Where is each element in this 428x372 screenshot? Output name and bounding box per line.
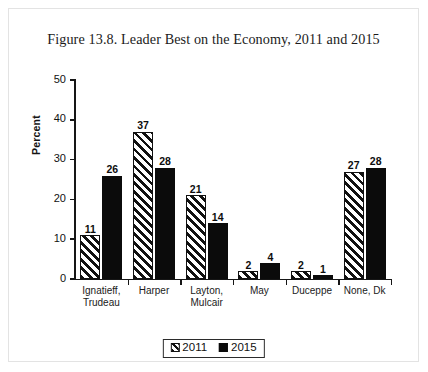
bar-value-label: 2 [245,260,251,271]
bar-value-label: 14 [212,212,224,223]
bar-2011-none-dk: 27 [344,172,364,279]
y-axis-tick-label: 20 [54,192,66,204]
x-axis-category-label: May [233,285,286,297]
y-axis-tick-mark [70,199,75,201]
chart-legend: 20112015 [162,339,264,358]
bar-2011-duceppe: 2 [291,271,311,279]
category-label-line: Layton, [180,285,233,297]
category-label-line: May [233,285,286,297]
bar-value-label: 4 [267,252,273,263]
category-label-line: Duceppe [286,285,339,297]
y-axis-tick-label: 30 [54,152,66,164]
bar-value-label: 1 [320,264,326,275]
bar-value-label: 21 [190,184,202,195]
category-label-line: Mulcair [180,297,233,309]
bar-2015-layton-mulcair: 14 [208,223,228,279]
bar-2015-may: 4 [260,263,280,279]
y-axis-tick-label: 0 [60,272,66,284]
y-axis-title: Percent [30,65,42,155]
bar-2015-none-dk: 28 [366,168,386,279]
bar-value-label: 2 [298,260,304,271]
bar-2011-ignatieff-trudeau: 11 [80,235,100,279]
bar-value-label: 37 [137,120,149,131]
bar-2011-harper: 37 [133,132,153,279]
bar-value-label: 27 [348,160,360,171]
legend-item-2011: 2011 [170,342,207,354]
bar-2011-layton-mulcair: 21 [186,195,206,279]
hatch-swatch-icon [170,343,179,352]
legend-label: 2015 [231,342,257,354]
category-label-line: None, Dk [338,285,391,297]
x-axis-tick-mark [391,279,392,285]
x-axis-category-label: Duceppe [286,285,339,297]
bar-value-label: 26 [106,164,118,175]
y-axis-tick-mark [70,159,75,161]
figure-frame: Figure 13.8. Leader Best on the Economy,… [8,8,419,362]
x-axis-category-label: None, Dk [338,285,391,297]
page-title: Figure 13.8. Leader Best on the Economy,… [9,31,418,48]
bar-2015-ignatieff-trudeau: 26 [102,176,122,279]
y-axis-tick-label: 10 [54,232,66,244]
bar-value-label: 11 [85,224,96,235]
category-label-line: Harper [128,285,181,297]
bar-2011-may: 2 [238,271,258,279]
x-axis-category-label: Layton,Mulcair [180,285,233,308]
bar-value-label: 28 [159,156,171,167]
x-axis-category-label: Harper [128,285,181,297]
legend-label: 2011 [182,342,207,354]
y-axis-tick-label: 50 [54,73,66,85]
category-label-line: Trudeau [75,297,128,309]
plot-area: 01020304050 11263728211424212728 [75,80,391,279]
y-axis-tick-mark [70,238,75,240]
y-axis-tick-mark [70,278,75,280]
solid-swatch-icon [219,343,228,352]
y-axis-tick-mark [70,79,75,81]
y-axis-tick-mark [70,119,75,121]
x-axis-category-label: Ignatieff,Trudeau [75,285,128,308]
category-label-line: Ignatieff, [75,285,128,297]
y-axis-tick-label: 40 [54,112,66,124]
bar-value-label: 28 [370,156,382,167]
bar-2015-duceppe: 1 [313,275,333,279]
legend-item-2015: 2015 [219,342,257,354]
bar-2015-harper: 28 [155,168,175,279]
